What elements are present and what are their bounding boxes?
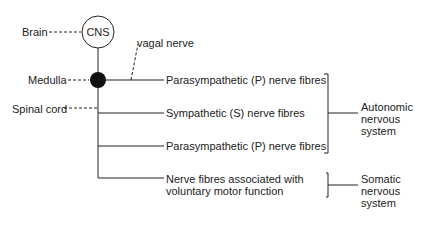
autonomic-label-line3: system bbox=[361, 125, 396, 137]
vagal-nerve-label: vagal nerve bbox=[137, 37, 194, 49]
branch-label-sympathetic: Sympathetic (S) nerve fibres bbox=[166, 107, 305, 119]
somatic-label-line3: system bbox=[361, 197, 396, 209]
vagal-leader bbox=[131, 44, 138, 80]
cns-label: CNS bbox=[82, 26, 114, 38]
medulla-label: Medulla bbox=[28, 74, 67, 86]
branch-label-somatic-line2: voluntary motor function bbox=[166, 185, 283, 197]
somatic-bracket bbox=[326, 173, 328, 197]
somatic-label-line1: Somatic bbox=[361, 173, 401, 185]
branch-label-parasympathetic-1: Parasympathetic (P) nerve fibres bbox=[166, 74, 326, 86]
somatic-label-line2: nervous bbox=[361, 185, 400, 197]
autonomic-label-line2: nervous bbox=[361, 113, 400, 125]
branch-label-parasympathetic-2: Parasympathetic (P) nerve fibres bbox=[166, 140, 326, 152]
autonomic-label-line1: Autonomic bbox=[361, 101, 413, 113]
spinal-cord-label: Spinal cord bbox=[12, 103, 67, 115]
branch-label-somatic-line1: Nerve fibres associated with bbox=[166, 173, 304, 185]
brain-label: Brain bbox=[22, 26, 48, 38]
